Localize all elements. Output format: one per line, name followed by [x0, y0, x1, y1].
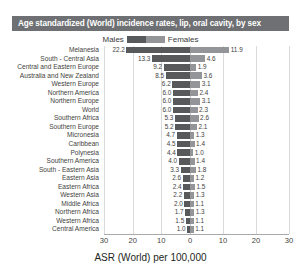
bar-male — [177, 141, 190, 148]
bar-value-male: 22.2 — [112, 46, 124, 54]
row-label: Micronesia — [0, 131, 99, 139]
axis-tick-label: 20 — [252, 236, 260, 245]
bar-female — [190, 107, 198, 114]
row-label: Northern Africa — [0, 208, 99, 216]
bar-value-male: 1.0 — [177, 225, 186, 233]
bar-value-male: 6.0 — [162, 89, 171, 97]
bar-value-male: 13.3 — [138, 55, 150, 63]
bar-female — [190, 132, 194, 139]
bar-value-female: 3.1 — [202, 97, 211, 105]
row-label: Central and Eastern Europe — [0, 63, 99, 71]
bar-value-female: 1.0 — [195, 149, 204, 157]
chart-row: Western Asia2.21.3 — [0, 191, 301, 199]
bar-value-female: 1.9 — [198, 63, 207, 71]
chart-row: Central America1.01.1 — [0, 225, 301, 233]
bar-value-female: 1.3 — [196, 131, 205, 139]
bar-value-female: 1.3 — [196, 208, 205, 216]
row-label: World — [0, 106, 99, 114]
bar-male — [173, 90, 190, 97]
bar-value-male: 2.6 — [172, 174, 181, 182]
bar-female — [190, 90, 198, 97]
bar-value-female: 1.4 — [196, 157, 205, 165]
bar-male — [166, 72, 190, 79]
chart-row: World6.02.3 — [0, 106, 301, 114]
bar-female — [190, 141, 195, 148]
row-label: Northern America — [0, 89, 99, 97]
chart-row: Micronesia4.71.3 — [0, 131, 301, 139]
legend-item-females: Females — [146, 35, 199, 44]
legend-swatch-females — [146, 36, 165, 43]
row-label: South - Central Asia — [0, 55, 99, 63]
bar-value-male: 4.7 — [166, 131, 175, 139]
bar-value-male: 2.0 — [174, 200, 183, 208]
bar-value-male: 4.0 — [168, 157, 177, 165]
bar-female — [190, 184, 195, 191]
bar-female — [190, 175, 194, 182]
bar-male — [172, 81, 190, 88]
bar-female — [190, 201, 194, 208]
bar-value-female: 1.1 — [195, 200, 204, 208]
row-label: Central America — [0, 225, 99, 233]
bar-value-female: 2.4 — [199, 89, 208, 97]
chart-row: Western Europe6.23.1 — [0, 80, 301, 88]
bar-value-female: 1.2 — [195, 174, 204, 182]
bar-female — [190, 149, 193, 156]
chart-row: Northern Africa1.71.3 — [0, 208, 301, 216]
bar-female — [190, 115, 199, 122]
chart-row: Southern America4.01.4 — [0, 157, 301, 165]
chart-row: Melanesia22.211.9 — [0, 46, 301, 54]
legend-label-males: Males — [102, 35, 123, 44]
row-label: Polynesia — [0, 149, 99, 157]
bar-value-female: 11.9 — [231, 46, 243, 54]
bar-value-female: 2.1 — [198, 123, 207, 131]
bar-value-male: 8.5 — [155, 72, 164, 80]
bar-value-male: 1.7 — [175, 208, 184, 216]
bar-female — [190, 64, 196, 71]
legend-label-females: Females — [168, 35, 199, 44]
chart-row: Polynesia4.41.0 — [0, 149, 301, 157]
row-label: Western Europe — [0, 80, 99, 88]
bar-value-female: 1.1 — [195, 225, 204, 233]
bar-male — [175, 115, 190, 122]
axis-tick-label: 20 — [128, 236, 136, 245]
bar-male — [164, 64, 190, 71]
bar-value-female: 1.3 — [196, 191, 205, 199]
bar-female — [190, 98, 200, 105]
axis-line — [104, 234, 289, 235]
chart-row: Eastern Africa2.41.5 — [0, 183, 301, 191]
chart-row: Middle Africa2.01.1 — [0, 200, 301, 208]
chart-row: Southern Africa5.32.6 — [0, 114, 301, 122]
bar-value-female: 2.6 — [200, 114, 209, 122]
page-title: Age standardized (World) incidence rates… — [18, 19, 261, 28]
bar-male — [177, 149, 190, 156]
chart-row: Northern Europe6.03.1 — [0, 97, 301, 105]
bar-value-female: 1.5 — [196, 183, 205, 191]
bar-female — [190, 209, 194, 216]
chart-x-axis: 3020100102030 — [104, 234, 289, 248]
bar-male — [173, 98, 190, 105]
chart-row: Central and Eastern Europe9.21.9 — [0, 63, 301, 71]
bar-male — [173, 107, 190, 114]
row-label: Western Africa — [0, 217, 99, 225]
axis-title: ASR (World) per 100,000 — [0, 252, 301, 263]
bar-female — [190, 167, 196, 174]
bar-value-male: 6.0 — [162, 97, 171, 105]
legend-item-males: Males — [102, 35, 145, 44]
bar-male — [177, 132, 190, 139]
row-label: Caribbean — [0, 140, 99, 148]
row-label: Southern Africa — [0, 114, 99, 122]
bar-male — [175, 124, 190, 131]
bar-male — [183, 184, 190, 191]
row-label: Middle Africa — [0, 200, 99, 208]
bar-female — [190, 72, 202, 79]
bar-female — [190, 47, 229, 54]
bar-value-female: 1.8 — [197, 166, 206, 174]
row-label: Eastern Asia — [0, 174, 99, 182]
bar-value-female: 1.4 — [196, 140, 205, 148]
bar-value-male: 9.2 — [153, 63, 162, 71]
chart-row: Northern America6.02.4 — [0, 89, 301, 97]
row-label: Eastern Africa — [0, 183, 99, 191]
bar-value-male: 5.3 — [164, 114, 173, 122]
axis-tick-label: 30 — [285, 236, 293, 245]
bar-value-male: 5.2 — [165, 123, 174, 131]
